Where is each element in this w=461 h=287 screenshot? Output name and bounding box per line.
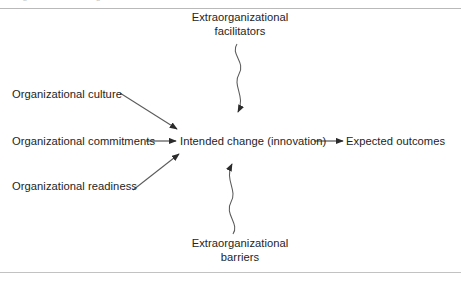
node-facilitators-line1: Extraorganizational [160, 11, 320, 25]
node-intended-change: Intended change (innovation) [180, 135, 326, 149]
edge-readiness-to-change [133, 154, 179, 190]
node-organizational-culture: Organizational culture [12, 88, 122, 102]
node-extraorganizational-facilitators: Extraorganizational facilitators [160, 11, 320, 38]
node-barriers-line2: barriers [160, 251, 320, 265]
edge-facilitators-to-change [235, 44, 241, 112]
node-facilitators-line2: facilitators [160, 25, 320, 39]
node-organizational-commitments: Organizational commitments [12, 135, 155, 149]
node-expected-outcomes: Expected outcomes [346, 135, 445, 149]
node-extraorganizational-barriers: Extraorganizational barriers [160, 237, 320, 264]
edge-culture-to-change [120, 93, 177, 129]
node-barriers-line1: Extraorganizational [160, 237, 320, 251]
figure-container: organizational change Extraorganizationa… [0, 0, 461, 287]
node-organizational-readiness: Organizational readiness [12, 180, 137, 194]
edge-barriers-to-change [229, 164, 235, 234]
